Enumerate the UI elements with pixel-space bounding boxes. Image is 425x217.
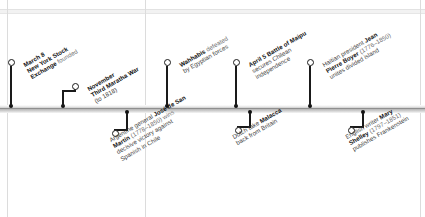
timeline-event-stem xyxy=(10,66,12,106)
timeline-event-stem xyxy=(62,90,64,106)
timeline-event-label: Haitian president JeanPierre Boyer (1776… xyxy=(321,25,396,81)
timeline-event-endpoint xyxy=(8,59,15,66)
page-top-band xyxy=(0,0,425,10)
timeline-event-label: April 5 Battle of Maipusecures Chileanin… xyxy=(247,29,314,80)
timeline-event-label: Argentine general José de SanMartín (177… xyxy=(108,94,198,162)
timeline-rail-center xyxy=(0,108,425,109)
timeline-event-label: Wahhabis defeatedby Egyptian forces xyxy=(178,35,233,75)
timeline-event-stem xyxy=(235,66,237,106)
timeline-event-endpoint xyxy=(72,83,79,90)
timeline-event-stem xyxy=(166,66,168,106)
timeline-page: March 8New York StockExchange foundedNov… xyxy=(0,0,425,217)
timeline-event-label: NovemberThird Maratha War(to 1818) xyxy=(86,59,144,105)
timeline-event-stem xyxy=(309,66,311,106)
timeline-event-endpoint xyxy=(233,59,240,66)
timeline-event-endpoint xyxy=(307,59,314,66)
timeline-event-label: March 8New York StockExchange founded xyxy=(22,35,79,80)
page-top-band-secondary xyxy=(0,10,425,14)
timeline-event-endpoint xyxy=(164,59,171,66)
